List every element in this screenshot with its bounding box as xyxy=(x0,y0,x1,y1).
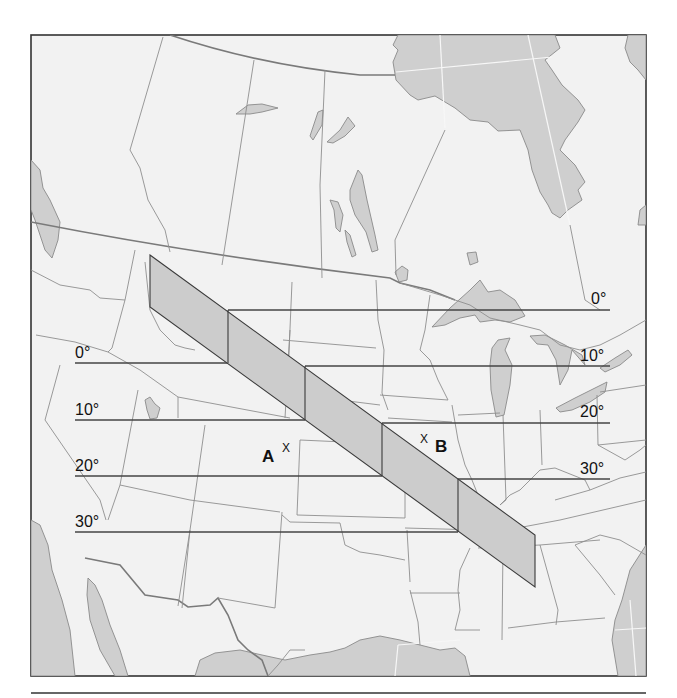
left-label-30: 30° xyxy=(75,513,99,530)
map-figure: 0° 10° 20° 30° 0° 10° 20° 30° A X X B xyxy=(0,0,677,698)
left-label-0: 0° xyxy=(75,344,90,361)
right-label-20: 20° xyxy=(580,403,604,420)
right-label-10: 10° xyxy=(580,347,604,364)
right-label-0: 0° xyxy=(591,290,606,307)
point-b-label: B xyxy=(435,437,447,456)
point-a-x-marker: X xyxy=(282,441,290,455)
left-label-10: 10° xyxy=(75,401,99,418)
left-label-20: 20° xyxy=(75,457,99,474)
point-a-label: A xyxy=(262,447,274,466)
point-b-x-marker: X xyxy=(420,432,428,446)
map-canvas: 0° 10° 20° 30° 0° 10° 20° 30° A X X B xyxy=(0,0,677,698)
right-label-30: 30° xyxy=(580,460,604,477)
